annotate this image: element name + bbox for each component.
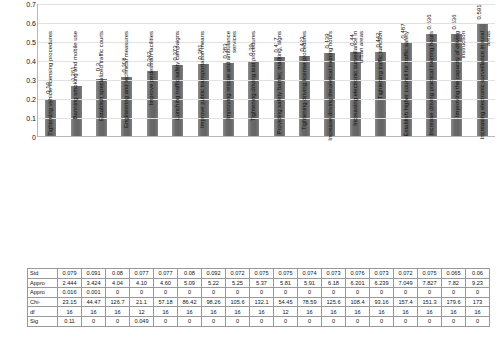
table-cell: 125.6 bbox=[322, 297, 346, 307]
table-cell: 0.079 bbox=[58, 269, 82, 279]
table-cell: 0.065 bbox=[442, 269, 466, 279]
table-cell: 16 bbox=[58, 307, 82, 317]
table-cell: 0 bbox=[178, 288, 202, 298]
table-cell: 157.4 bbox=[394, 297, 418, 307]
table-row: Chi-23.1544.47126.721.157.1886.4298.2610… bbox=[28, 297, 490, 307]
table-cell: 16 bbox=[82, 307, 106, 317]
table-cell: 0.001 bbox=[82, 288, 106, 298]
table-cell: 7.827 bbox=[418, 278, 442, 288]
table-cell: 78.59 bbox=[298, 297, 322, 307]
table-cell: 0.075 bbox=[250, 269, 274, 279]
table-cell: 12 bbox=[274, 307, 298, 317]
table-cell: 0.092 bbox=[202, 269, 226, 279]
table-cell: 0 bbox=[346, 316, 370, 326]
table-cell: 16 bbox=[106, 307, 130, 317]
table-cell: 16 bbox=[346, 307, 370, 317]
table-cell: 4.10 bbox=[130, 278, 154, 288]
table-cell: 0 bbox=[466, 316, 490, 326]
table-cell: 0 bbox=[154, 316, 178, 326]
table-cell: 6.201 bbox=[346, 278, 370, 288]
stats-table-body: Std0.0790.0910.080.0770.0770.080.0920.07… bbox=[28, 269, 490, 327]
table-cell: 0 bbox=[418, 316, 442, 326]
table-cell: 0.075 bbox=[274, 269, 298, 279]
table-cell: 16 bbox=[226, 307, 250, 317]
table-row-header: Std bbox=[28, 269, 58, 279]
table-cell: 16 bbox=[442, 307, 466, 317]
table-row-header: Appro bbox=[28, 288, 58, 298]
table-cell: 0.016 bbox=[58, 288, 82, 298]
table-cell: 16 bbox=[298, 307, 322, 317]
table-cell: 6.18 bbox=[322, 278, 346, 288]
table-cell: 0.077 bbox=[154, 269, 178, 279]
table-cell: 0 bbox=[346, 288, 370, 298]
table-cell: 151.3 bbox=[418, 297, 442, 307]
table-cell: 44.47 bbox=[82, 297, 106, 307]
table-cell: 0.075 bbox=[418, 269, 442, 279]
table-cell: 0 bbox=[202, 316, 226, 326]
table-cell: 0 bbox=[250, 316, 274, 326]
table-cell: 21.1 bbox=[130, 297, 154, 307]
table-cell: 0 bbox=[442, 316, 466, 326]
table-cell: 16 bbox=[466, 307, 490, 317]
table-cell: 0.08 bbox=[178, 269, 202, 279]
table-cell: 9.23 bbox=[466, 278, 490, 288]
table-cell: 0 bbox=[82, 316, 106, 326]
stats-table-wrapper: Std0.0790.0910.080.0770.0770.080.0920.07… bbox=[0, 0, 501, 341]
table-cell: 0 bbox=[370, 316, 394, 326]
table-cell: 0 bbox=[130, 288, 154, 298]
table-cell: 0.06 bbox=[466, 269, 490, 279]
table-cell: 6.239 bbox=[370, 278, 394, 288]
table-cell: 0 bbox=[370, 288, 394, 298]
table-cell: 0.074 bbox=[298, 269, 322, 279]
table-cell: 54.45 bbox=[274, 297, 298, 307]
table-cell: 16 bbox=[154, 307, 178, 317]
table-cell: 16 bbox=[394, 307, 418, 317]
table-cell: 0 bbox=[202, 288, 226, 298]
table-cell: 98.26 bbox=[202, 297, 226, 307]
table-cell: 105.6 bbox=[226, 297, 250, 307]
table-cell: 12 bbox=[130, 307, 154, 317]
table-cell: 132.1 bbox=[250, 297, 274, 307]
table-cell: 4.60 bbox=[154, 278, 178, 288]
table-cell: 0.073 bbox=[370, 269, 394, 279]
table-cell: 0 bbox=[418, 288, 442, 298]
table-cell: 0 bbox=[442, 288, 466, 298]
table-cell: 5.25 bbox=[226, 278, 250, 288]
table-cell: 0 bbox=[394, 316, 418, 326]
table-cell: 173 bbox=[466, 297, 490, 307]
table-cell: 0 bbox=[322, 288, 346, 298]
table-cell: 5.37 bbox=[250, 278, 274, 288]
table-cell: 86.42 bbox=[178, 297, 202, 307]
table-cell: 3.424 bbox=[82, 278, 106, 288]
table-cell: 0 bbox=[298, 288, 322, 298]
table-cell: 5.91 bbox=[298, 278, 322, 288]
table-cell: 0 bbox=[106, 288, 130, 298]
table-cell: 0.08 bbox=[106, 269, 130, 279]
table-cell: 0 bbox=[226, 316, 250, 326]
table-cell: 16 bbox=[250, 307, 274, 317]
table-cell: 23.15 bbox=[58, 297, 82, 307]
table-cell: 93.16 bbox=[370, 297, 394, 307]
table-cell: 0.049 bbox=[130, 316, 154, 326]
table-cell: 0 bbox=[106, 316, 130, 326]
table-row: Sig0.11000.04900000000000000 bbox=[28, 316, 490, 326]
table-cell: 5.22 bbox=[202, 278, 226, 288]
table-cell: 16 bbox=[370, 307, 394, 317]
table-row: Appro0.0160.0010000000000000000 bbox=[28, 288, 490, 298]
table-cell: 0.091 bbox=[82, 269, 106, 279]
table-cell: 5.81 bbox=[274, 278, 298, 288]
table-row-header: Sig bbox=[28, 316, 58, 326]
table-cell: 0 bbox=[154, 288, 178, 298]
table-cell: 0 bbox=[250, 288, 274, 298]
table-cell: 0 bbox=[322, 316, 346, 326]
table-row: Appro2.4443.4244.044.104.605.095.225.255… bbox=[28, 278, 490, 288]
table-cell: 0 bbox=[274, 316, 298, 326]
table-cell: 2.444 bbox=[58, 278, 82, 288]
table-cell: 0.072 bbox=[394, 269, 418, 279]
figure-root: 00.10.20.30.40.50.60.7 0.190.2610.30.308… bbox=[0, 0, 501, 341]
table-row-header: Appro bbox=[28, 278, 58, 288]
table-cell: 0 bbox=[274, 288, 298, 298]
table-cell: 0 bbox=[226, 288, 250, 298]
table-cell: 16 bbox=[418, 307, 442, 317]
table-cell: 0.073 bbox=[322, 269, 346, 279]
